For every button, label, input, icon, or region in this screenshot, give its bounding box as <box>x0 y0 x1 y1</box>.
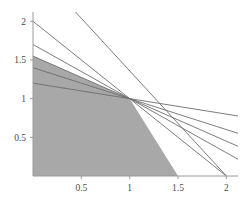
x-tick-label: 1.5 <box>172 183 184 193</box>
x-tick-label: 2 <box>224 183 229 193</box>
x-tick-label: 0.5 <box>75 183 87 193</box>
y-tick-label: 0.5 <box>14 133 26 143</box>
x-tick-label: 1 <box>127 183 132 193</box>
y-tick-label: 1 <box>21 94 26 104</box>
y-tick-label: 1.5 <box>14 55 26 65</box>
chart-container: 0.511.52 0.511.52 <box>0 0 243 203</box>
linear-program-plot: 0.511.52 0.511.52 <box>0 0 243 203</box>
y-tick-label: 2 <box>21 17 26 27</box>
